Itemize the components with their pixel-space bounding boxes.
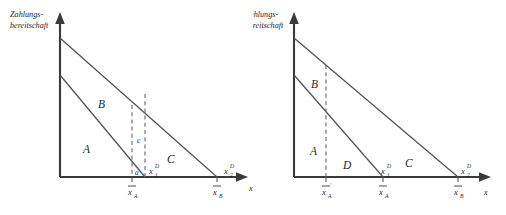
- right-region-label-C: C: [405, 157, 413, 169]
- left-inner-demand-line: [60, 75, 145, 177]
- two-panel-demand-diagram: Zahlungs- bereitschaft B A C a c x 1 D x…: [0, 0, 506, 215]
- right-xbarB-base: x: [453, 187, 458, 197]
- left-annotation-x1D-base: x: [148, 166, 153, 176]
- right-region-label-D: D: [342, 159, 352, 171]
- left-y-axis-label-line1: Zahlungs-: [10, 10, 43, 19]
- right-xtick-label-xbarA: x A: [378, 186, 389, 199]
- right-annotation-x2D: x 2 D: [460, 163, 471, 178]
- right-xbarA-sub: A: [384, 193, 389, 199]
- left-outer-demand-line: [60, 38, 217, 177]
- left-x-axis-arrowhead: [236, 172, 248, 182]
- right-xtick-label-xbarAprime: ' x A: [321, 182, 332, 199]
- right-xbarAprime-sub: A: [327, 193, 332, 199]
- right-region-label-A: A: [309, 145, 318, 157]
- right-y-axis-arrowhead: [289, 12, 299, 24]
- right-annotation-x1D-sub: 1: [387, 172, 390, 178]
- left-xbarA-sub: A: [133, 193, 138, 199]
- left-annotation-x2D-sub: 2: [230, 172, 233, 178]
- right-y-axis-label-line2: bereitschaft: [253, 21, 284, 30]
- right-xtick-label-xbarB: x B: [453, 186, 464, 199]
- right-annotation-x1D: x 1 D: [380, 163, 391, 178]
- left-region-label-C: C: [167, 153, 175, 165]
- right-inner-demand-line: [294, 75, 383, 177]
- right-xbarA-base: x: [378, 187, 383, 197]
- left-xbarB-sub: B: [219, 193, 223, 199]
- left-annotation-x2D-base: x: [223, 166, 228, 176]
- left-small-label-a: a: [135, 169, 139, 177]
- left-annotation-x2D: x 2 D: [223, 163, 234, 178]
- left-annotation-x1D-sub: 1: [155, 172, 158, 178]
- left-region-label-B: B: [98, 98, 105, 110]
- right-x-axis-name: x: [483, 188, 488, 197]
- right-y-axis-label-line1: Zahlungs-: [253, 10, 278, 19]
- left-annotation-x1D: x 1 D: [148, 163, 159, 178]
- right-annotation-x1D-sup: D: [386, 163, 391, 169]
- right-xbarAprime-base: x: [321, 187, 326, 197]
- right-annotation-x2D-sub: 2: [467, 172, 470, 178]
- right-annotation-x1D-base: x: [380, 166, 385, 176]
- right-region-label-B: B: [311, 78, 318, 90]
- left-xbarA-base: x: [127, 187, 132, 197]
- left-xbarB-base: x: [212, 187, 217, 197]
- left-annotation-x1D-sup: D: [154, 163, 159, 169]
- left-y-axis-label-line2: bereitschaft: [10, 21, 49, 30]
- right-xbarAprime-prime: ': [330, 182, 332, 188]
- right-outer-demand-line: [294, 38, 458, 177]
- right-x-axis-arrowhead: [479, 172, 491, 182]
- left-annotation-x2D-sup: D: [229, 163, 234, 169]
- left-xtick-label-xbarB: x B: [212, 186, 223, 199]
- right-xbarB-sub: B: [460, 193, 464, 199]
- left-demand-chart: Zahlungs- bereitschaft B A C a c x 1 D x…: [0, 0, 253, 215]
- right-demand-chart: Zahlungs- bereitschaft B A D C x 1 D x 2…: [253, 0, 506, 215]
- right-annotation-x2D-sup: D: [466, 163, 471, 169]
- left-small-label-c: c: [137, 137, 141, 145]
- left-y-axis-arrowhead: [55, 12, 65, 24]
- left-xtick-label-xbarA: x A: [127, 186, 138, 199]
- left-region-label-A: A: [82, 143, 91, 155]
- right-annotation-x2D-base: x: [460, 166, 465, 176]
